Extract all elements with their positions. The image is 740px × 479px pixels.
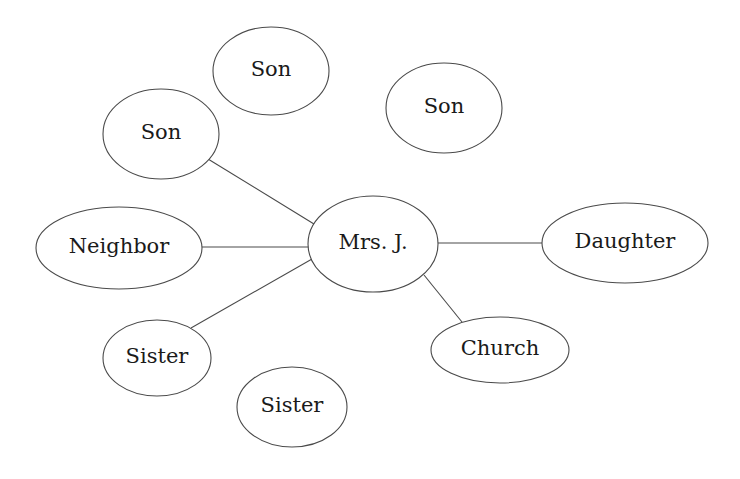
node-label: Sister bbox=[126, 344, 190, 368]
edge-mrs-j-to-church bbox=[424, 275, 462, 322]
node-label: Sister bbox=[261, 393, 325, 417]
node-label: Daughter bbox=[575, 229, 677, 253]
node-label: Son bbox=[141, 120, 182, 144]
node-label: Neighbor bbox=[69, 234, 171, 258]
node-label: Church bbox=[461, 336, 539, 360]
node-sister-bottom: Sister bbox=[237, 367, 347, 447]
node-mrs-j: Mrs. J. bbox=[308, 196, 438, 292]
node-label: Son bbox=[251, 57, 292, 81]
edge-sister-left-to-mrs-j bbox=[191, 259, 312, 328]
node-label: Mrs. J. bbox=[338, 230, 407, 254]
edge-son-left-to-mrs-j bbox=[208, 159, 314, 224]
ego-network-diagram: SonSonSonNeighborMrs. J.DaughterSisterSi… bbox=[0, 0, 740, 479]
node-label: Son bbox=[424, 94, 465, 118]
node-daughter: Daughter bbox=[542, 203, 708, 283]
node-neighbor: Neighbor bbox=[36, 207, 202, 289]
node-son-top: Son bbox=[213, 27, 329, 115]
nodes-layer: SonSonSonNeighborMrs. J.DaughterSisterSi… bbox=[36, 27, 708, 447]
node-son-left: Son bbox=[103, 89, 219, 179]
node-sister-left: Sister bbox=[103, 320, 211, 396]
node-son-right: Son bbox=[386, 63, 502, 153]
node-church: Church bbox=[431, 317, 569, 383]
